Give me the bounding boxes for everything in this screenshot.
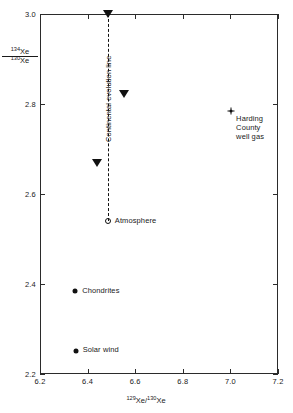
y-tick-2.2 bbox=[40, 374, 45, 375]
y-denominator-mass: 130 bbox=[11, 54, 20, 60]
x-axis-title: 129Xe/130Xe bbox=[126, 396, 165, 405]
x-tick-label-6.2: 6.2 bbox=[34, 377, 45, 386]
xenon-isotope-scatter-plot: 6.26.46.66.87.07.22.22.42.62.83.0Contine… bbox=[0, 0, 293, 413]
plot-frame bbox=[40, 14, 278, 374]
y-axis-title: 134Xe 130Xe bbox=[2, 48, 38, 65]
x-numerator-mass: 129 bbox=[126, 395, 135, 401]
x-tick-top-7.2 bbox=[278, 14, 279, 19]
y-tick-right-2.2 bbox=[273, 374, 278, 375]
y-axis-denominator: 130Xe bbox=[2, 57, 38, 65]
x-tick-label-6.4: 6.4 bbox=[82, 377, 93, 386]
x-tick-label-6.6: 6.6 bbox=[130, 377, 141, 386]
x-tick-label-7.0: 7.0 bbox=[225, 377, 236, 386]
y-tick-label-2.2: 2.2 bbox=[8, 370, 36, 379]
x-tick-7.2 bbox=[278, 369, 279, 374]
y-numerator-mass: 134 bbox=[11, 46, 20, 52]
y-tick-label-3.0: 3.0 bbox=[8, 10, 36, 19]
x-tick-label-6.8: 6.8 bbox=[177, 377, 188, 386]
y-tick-label-2.4: 2.4 bbox=[8, 280, 36, 289]
x-denominator-mass: 130 bbox=[147, 395, 156, 401]
y-denominator-element: Xe bbox=[20, 56, 29, 65]
y-tick-label-2.8: 2.8 bbox=[8, 100, 36, 109]
x-numerator-element: Xe bbox=[136, 396, 145, 405]
y-tick-label-2.6: 2.6 bbox=[8, 190, 36, 199]
x-denominator-element: Xe bbox=[156, 396, 165, 405]
y-numerator-element: Xe bbox=[20, 47, 29, 56]
x-tick-label-7.2: 7.2 bbox=[272, 377, 283, 386]
